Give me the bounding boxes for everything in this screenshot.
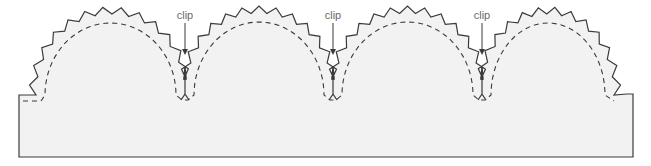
scalloped-seam-diagram: clip clip clip	[0, 0, 651, 166]
clip-label-3: clip	[474, 9, 491, 21]
clip-label-2: clip	[325, 9, 342, 21]
pinked-outline	[19, 6, 633, 157]
arrow-down-icon	[479, 49, 485, 55]
clip-marker-1: clip	[177, 9, 194, 55]
clip-marker-2: clip	[325, 9, 342, 55]
clip-marker-3: clip	[474, 9, 491, 55]
fabric-shape	[19, 6, 633, 157]
clip-label-1: clip	[177, 9, 194, 21]
arrow-down-icon	[182, 49, 188, 55]
arrow-down-icon	[330, 49, 336, 55]
